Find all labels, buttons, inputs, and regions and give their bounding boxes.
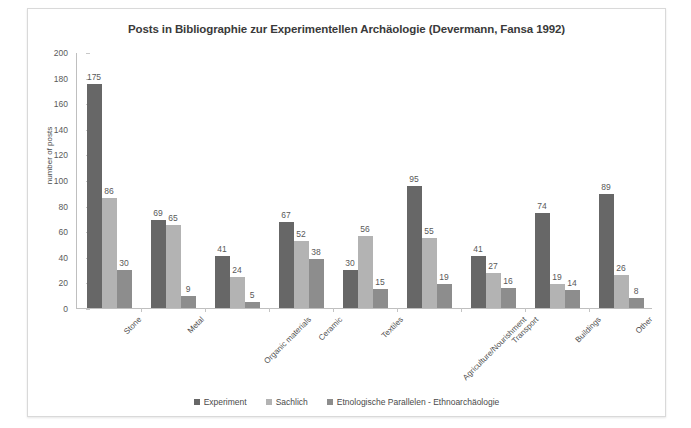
x-axis-tick-mark [333,308,334,312]
y-axis-tick-label: 40 [42,253,68,263]
x-axis-category-label: Buildings [574,315,603,344]
legend-item-label: Sachlich [276,397,308,407]
legend-item[interactable]: Sachlich [266,397,308,407]
x-axis-category-label: Agriculture/Nourishment [461,315,528,382]
bar-value-label: 41 [217,244,226,254]
x-axis-tick-mark [205,308,206,312]
bar-group: 41245 [205,53,269,308]
x-axis-category-label: Stone [122,315,143,336]
bar-value-label: 8 [634,286,639,296]
bar-group: 675238 [269,53,333,308]
bar-group-bars: 69659 [141,53,205,308]
bar[interactable]: 55 [422,238,437,308]
bar[interactable]: 65 [166,225,181,308]
legend-item[interactable]: Experiment [194,397,247,407]
bar[interactable]: 41 [471,256,486,308]
bar-value-label: 65 [168,213,177,223]
bar[interactable]: 95 [407,186,422,308]
bar[interactable]: 19 [437,284,452,308]
legend-item[interactable]: Etnologische Parallelen - Ethnoarchäolog… [327,397,500,407]
bar-value-label: 86 [104,186,113,196]
bar[interactable]: 89 [599,194,614,308]
legend-swatch-icon [327,399,333,405]
legend-item-label: Experiment [204,397,247,407]
y-axis-tick-label: 140 [42,125,68,135]
bar[interactable]: 69 [151,220,166,308]
y-axis-tick-label: 20 [42,278,68,288]
y-axis-tick-mark [86,309,90,310]
bar-value-label: 30 [119,258,128,268]
y-axis-tick-label: 160 [42,99,68,109]
bar[interactable]: 74 [535,213,550,308]
bar-group: 69659 [141,53,205,308]
bar[interactable]: 14 [565,290,580,308]
bar-group: 305615 [333,53,397,308]
bar-value-label: 55 [424,226,433,236]
y-axis-tick-label: 60 [42,227,68,237]
x-axis-category-label: Textiles [380,315,405,340]
bar-value-label: 41 [473,244,482,254]
bar[interactable]: 27 [486,273,501,308]
y-axis-tick-label: 100 [42,176,68,186]
bar[interactable]: 5 [245,302,260,308]
x-axis-tick-mark [269,308,270,312]
y-axis-tick-label: 180 [42,74,68,84]
bar-value-label: 26 [616,263,625,273]
bar-group-bars: 89268 [589,53,653,308]
chart-container: Posts in Bibliographie zur Experimentell… [27,8,666,417]
bar-group-bars: 412716 [461,53,525,308]
bar-group-bars: 305615 [333,53,397,308]
bar-group-bars: 955519 [397,53,461,308]
y-axis-tick-label: 200 [42,48,68,58]
bar-group-bars: 1758630 [77,53,141,308]
bar-value-label: 19 [439,272,448,282]
bar[interactable]: 52 [294,241,309,308]
bar-group-bars: 41245 [205,53,269,308]
x-axis-category-label: Ceramic [317,315,344,342]
bar[interactable]: 26 [614,275,629,308]
x-axis-category-label: Metal [186,315,206,335]
bar-value-label: 16 [503,276,512,286]
bar-group: 955519 [397,53,461,308]
bar-value-label: 9 [186,284,191,294]
bar-value-label: 19 [552,272,561,282]
plot-wrapper: number of posts 020406080100120140160180… [28,9,667,418]
bar-group: 89268 [589,53,653,308]
bar[interactable]: 175 [87,84,102,308]
bar[interactable]: 16 [501,288,516,308]
y-axis-tick-label: 80 [42,202,68,212]
chart-legend: ExperimentSachlichEtnologische Parallele… [28,397,665,407]
bar-group: 741914 [525,53,589,308]
y-axis-tick-label: 120 [42,150,68,160]
bar-value-label: 74 [537,201,546,211]
bar[interactable]: 67 [279,222,294,308]
x-axis-tick-mark [141,308,142,312]
legend-swatch-icon [266,399,272,405]
bar[interactable]: 19 [550,284,565,308]
y-axis-ticks: 020406080100120140160180200 [42,53,72,309]
bar[interactable]: 56 [358,236,373,308]
bar-value-label: 38 [311,247,320,257]
legend-item-label: Etnologische Parallelen - Ethnoarchäolog… [337,397,500,407]
bar[interactable]: 8 [629,298,644,308]
bar[interactable]: 24 [230,277,245,308]
bar[interactable]: 15 [373,289,388,308]
x-axis-tick-mark [397,308,398,312]
bar[interactable]: 30 [343,270,358,308]
bar-value-label: 15 [375,277,384,287]
bar-value-label: 27 [488,261,497,271]
bar-group-bars: 741914 [525,53,589,308]
bar-value-label: 5 [250,290,255,300]
x-axis-tick-mark [589,308,590,312]
bar[interactable]: 86 [102,198,117,308]
bar-value-label: 69 [153,208,162,218]
bar-value-label: 67 [281,210,290,220]
bar-value-label: 52 [296,229,305,239]
bar[interactable]: 41 [215,256,230,308]
x-axis-tick-mark [525,308,526,312]
plot-area: 1758630696594124567523830561595551941271… [76,53,652,309]
bar[interactable]: 30 [117,270,132,308]
bar[interactable]: 9 [181,296,196,308]
bar[interactable]: 38 [309,259,324,308]
bar-value-label: 89 [601,182,610,192]
